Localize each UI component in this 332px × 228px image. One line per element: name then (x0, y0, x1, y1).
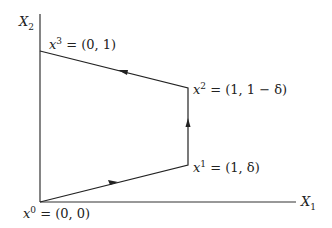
x-axis-label: X1 (301, 195, 316, 212)
point-label-x3: x3 = (0, 1) (49, 37, 116, 51)
y-axis-label: X2 (19, 15, 34, 32)
arrow-x2-x3-icon (118, 70, 128, 75)
arrow-x1-x2-icon (186, 118, 191, 127)
point-label-x0: x0 = (0, 0) (23, 206, 90, 220)
point-label-x2: x2 = (1, 1 − δ) (193, 82, 287, 96)
point-label-x1: x1 = (1, δ) (193, 160, 260, 174)
path-polyline (40, 51, 188, 202)
diagram-canvas (0, 0, 332, 228)
